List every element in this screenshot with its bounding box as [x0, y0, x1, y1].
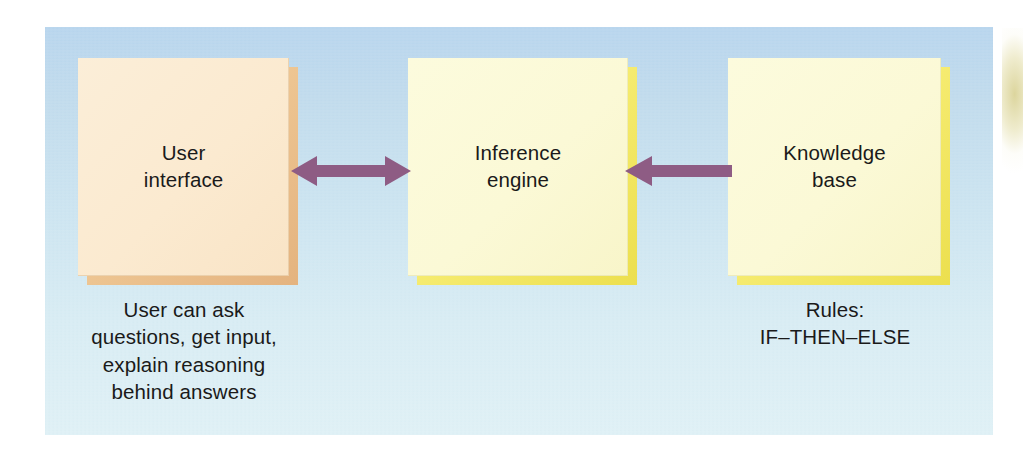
arrow-knowledge-base-to-inference-engine: [625, 152, 732, 190]
caption-user-interface: User can ask questions, get input, expla…: [48, 296, 320, 405]
node-user-interface[interactable]: User interface: [78, 58, 289, 276]
expert-system-diagram: User interface Inference engine Knowledg…: [0, 0, 1023, 452]
scan-bleed-artifact: [1002, 28, 1023, 193]
arrow-user-interface-to-inference-engine: [291, 152, 411, 190]
node-knowledge-base[interactable]: Knowledge base: [728, 58, 941, 276]
node-inference-engine-label: Inference engine: [408, 58, 628, 276]
caption-knowledge-base: Rules: IF–THEN–ELSE: [712, 296, 958, 351]
node-inference-engine[interactable]: Inference engine: [408, 58, 628, 276]
node-knowledge-base-label: Knowledge base: [728, 58, 941, 276]
node-user-interface-label: User interface: [78, 58, 289, 276]
